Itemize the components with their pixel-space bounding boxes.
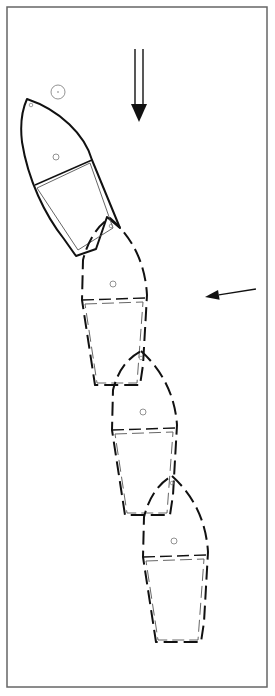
beam-line xyxy=(35,160,92,185)
beam-line xyxy=(82,298,146,300)
diagram-canvas xyxy=(0,0,275,696)
mast-position-icon xyxy=(53,154,59,160)
arrow-shaft xyxy=(219,289,256,295)
mark-center-dot xyxy=(57,91,59,93)
hull-outline xyxy=(82,218,147,385)
current-direction-arrow-icon xyxy=(131,49,147,122)
cockpit-outline xyxy=(146,559,204,640)
hull-outline xyxy=(112,351,177,515)
boat-position-1 xyxy=(21,99,120,256)
boat-maneuver-diagram xyxy=(0,0,275,696)
beam-line xyxy=(112,428,176,430)
bow-point-icon xyxy=(139,356,143,360)
wind-direction-arrow-icon xyxy=(205,289,256,300)
mast-position-icon xyxy=(110,281,116,287)
arrow-head xyxy=(131,104,147,122)
beam-line xyxy=(143,555,207,557)
mast-position-icon xyxy=(171,538,177,544)
cockpit-outline xyxy=(85,302,143,383)
cockpit-outline xyxy=(37,163,113,250)
boat-position-3 xyxy=(112,351,177,515)
mast-position-icon xyxy=(140,409,146,415)
boat-positions xyxy=(21,99,208,642)
arrow-head xyxy=(205,290,220,300)
boat-position-2 xyxy=(82,218,147,385)
boat-position-4 xyxy=(143,476,208,642)
bow-point-icon xyxy=(29,103,33,107)
